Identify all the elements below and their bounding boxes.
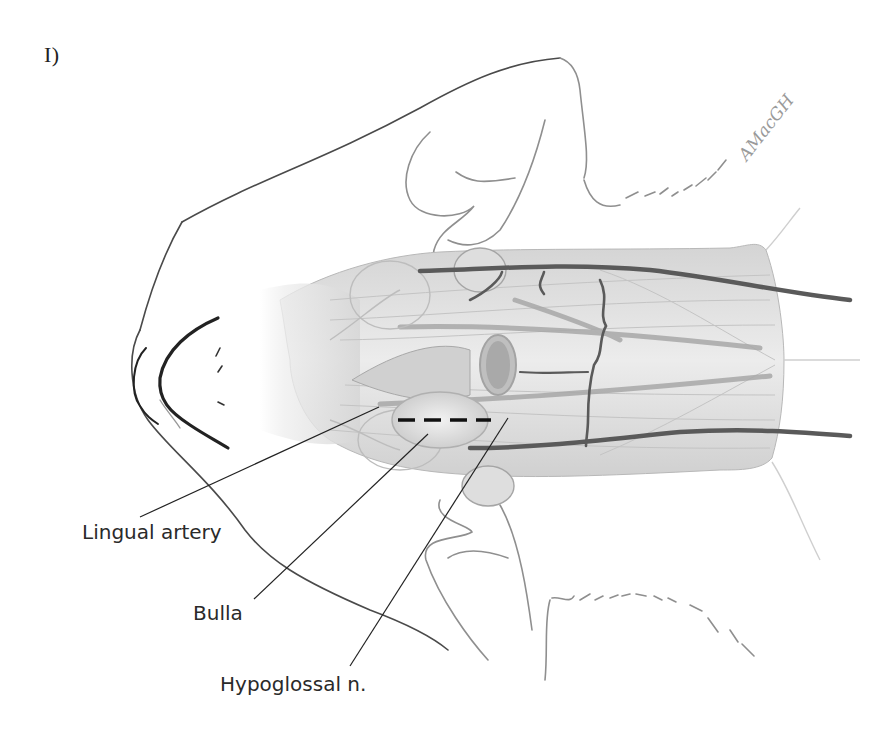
label-hypoglossal-nerve: Hypoglossal n. — [220, 672, 366, 696]
label-lingual-artery: Lingual artery — [82, 520, 222, 544]
label-bulla: Bulla — [193, 601, 243, 625]
leader-bulla — [254, 434, 428, 599]
upper-ear — [406, 58, 586, 278]
lower-ear — [425, 500, 754, 680]
anatomy-illustration — [0, 0, 896, 746]
leader-lingual-artery — [140, 407, 379, 517]
upper-fur — [584, 160, 726, 206]
lips — [134, 318, 228, 448]
